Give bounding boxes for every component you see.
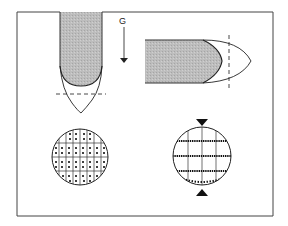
gravity-label: G: [119, 16, 126, 26]
diagram-canvas: G: [0, 0, 288, 226]
dot-grid-cross-section: [48, 125, 112, 190]
vertical-pipette: [56, 12, 106, 113]
stratified-cross-section: [170, 119, 234, 196]
horizontal-pipette: [145, 35, 251, 90]
arrow-head-icon: [120, 58, 128, 63]
gravity-arrow: G: [119, 16, 128, 63]
bottom-marker-triangle-icon: [196, 189, 208, 196]
top-marker-triangle-icon: [196, 119, 208, 126]
